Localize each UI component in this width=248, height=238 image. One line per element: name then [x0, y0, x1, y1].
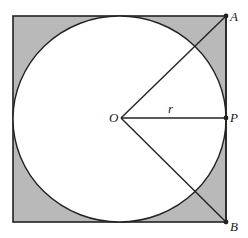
label-r: r [168, 102, 173, 115]
diagram-canvas [0, 0, 248, 238]
label-P: P [230, 111, 238, 124]
point-P [224, 116, 229, 121]
point-A [224, 14, 229, 19]
label-O: O [109, 111, 118, 124]
geometry-diagram: O A P B r [0, 0, 248, 238]
label-A: A [230, 10, 238, 23]
label-B: B [230, 220, 238, 233]
point-B [224, 220, 229, 225]
